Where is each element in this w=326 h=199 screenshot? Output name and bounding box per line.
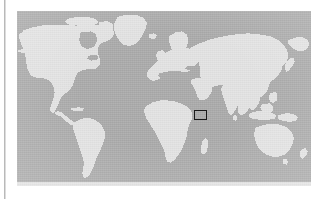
world-map-figure bbox=[17, 11, 311, 186]
figure-page bbox=[0, 0, 326, 199]
land-antarctica bbox=[17, 182, 311, 186]
page-margin-rule-secondary bbox=[5, 0, 6, 199]
world-map-graphic bbox=[17, 11, 311, 186]
mediterranean-sea-water bbox=[158, 71, 191, 80]
study-area-rectangle bbox=[194, 110, 207, 120]
